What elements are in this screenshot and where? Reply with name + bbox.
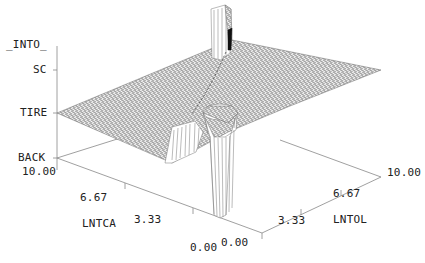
z-tick-back: BACK xyxy=(18,152,45,164)
y-tick-10: 10.00 xyxy=(387,167,421,179)
x-tick-0: 0.00 xyxy=(190,242,217,254)
y-tick-0: 0.00 xyxy=(221,237,248,249)
x-tick-10: 10.00 xyxy=(22,166,56,178)
z-tick-sc: SC xyxy=(33,64,47,76)
x-axis-title: LNTCA xyxy=(82,218,116,230)
x-tick-3-33: 3.33 xyxy=(134,214,161,226)
z-tick-tire: TIRE xyxy=(20,107,47,119)
y-tick-3-33: 3.33 xyxy=(278,215,305,227)
z-axis-title: _INTO_ xyxy=(6,39,47,51)
x-tick-6-67: 6.67 xyxy=(80,192,107,204)
spike-wall xyxy=(211,5,232,60)
y-tick-6-67: 6.67 xyxy=(333,188,360,200)
y-axis-title: LNTOL xyxy=(333,214,367,226)
